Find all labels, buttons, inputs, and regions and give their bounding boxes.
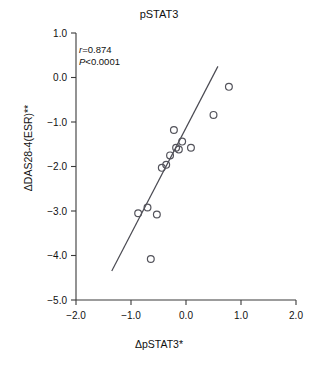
x-tick-label: 1.0 [234,310,248,321]
data-points-group [135,83,233,262]
x-axis-label: ΔpSTAT3* [0,338,318,350]
y-tick-label: −3.0 [47,206,67,217]
y-tick-label: −1.0 [47,117,67,128]
y-tick-label: 0.0 [53,72,67,83]
x-tick-label: −1.0 [121,310,141,321]
data-point [226,83,233,90]
x-axis-ticks: −2.0−1.00.01.02.0 [66,300,303,321]
data-point [210,111,217,118]
data-point [135,210,142,217]
scatter-plot: 1.00.0−1.0−2.0−3.0−4.0−5.0 −2.0−1.00.01.… [0,0,318,365]
y-axis-label: ΔDAS28-4(ESR)** [22,68,34,228]
x-tick-label: −2.0 [66,310,86,321]
data-point [188,144,195,151]
data-point [179,138,186,145]
x-tick-label: 2.0 [289,310,303,321]
y-tick-label: 1.0 [53,28,67,39]
x-tick-label: 0.0 [179,310,193,321]
figure-container: pSTAT3 r=0.874 P<0.0001 1.00.0−1.0−2.0−3… [0,0,318,365]
y-tick-label: −5.0 [47,295,67,306]
y-tick-label: −2.0 [47,161,67,172]
data-point [147,256,154,263]
data-point [171,127,178,134]
y-axis-ticks: 1.00.0−1.0−2.0−3.0−4.0−5.0 [47,28,76,306]
data-point [153,211,160,218]
y-tick-label: −4.0 [47,250,67,261]
